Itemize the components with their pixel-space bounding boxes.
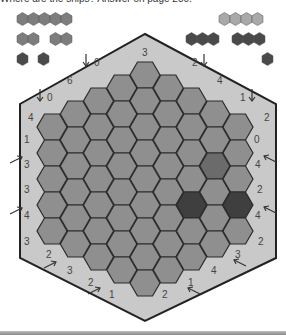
clue-number: 2: [162, 289, 168, 300]
clue-number: 1: [109, 289, 115, 300]
clue-number: 0: [94, 57, 100, 68]
clue-number: 6: [67, 75, 73, 86]
clue-number: 1: [24, 134, 30, 145]
fleet-ship-4: [219, 13, 263, 26]
clue-number: 2: [264, 112, 270, 123]
clue-number: 2: [88, 277, 94, 288]
clue-number: 3: [24, 184, 30, 195]
clue-number: 0: [47, 92, 53, 103]
fleet-ship-5: [17, 13, 72, 26]
fleet-ship-1b: [38, 53, 49, 66]
clue-number: 4: [28, 112, 34, 123]
clue-number: 4: [217, 75, 223, 86]
clue-number: 4: [255, 210, 261, 221]
clue-number: 1: [188, 277, 194, 288]
clue-number: 2: [257, 184, 263, 195]
clue-number: 0: [254, 134, 260, 145]
fleet-ship-1c: [262, 53, 273, 66]
fleet-ship-2b: [50, 33, 72, 46]
fleet-ship-3a: [186, 33, 219, 46]
fleet-ship-2a: [17, 33, 39, 46]
clue-number: 1: [240, 92, 246, 103]
fleet-ship-1a: [17, 53, 28, 66]
fleet-ship-3b: [232, 33, 265, 46]
arrow-down-icon: [83, 54, 89, 66]
clue-number: 3: [235, 249, 241, 260]
clue-number: 3: [24, 236, 30, 247]
bottom-bar: [0, 331, 286, 335]
clue-number: 4: [255, 159, 261, 170]
clue-number: 2: [258, 236, 264, 247]
clue-number: 4: [24, 210, 30, 221]
battleship-hex-board: 302640142133432321214320424: [0, 0, 286, 335]
clue-number: 4: [211, 265, 217, 276]
clue-number: 3: [67, 265, 73, 276]
clue-number: 2: [46, 249, 52, 260]
clue-number: 2: [192, 57, 198, 68]
clue-number: 3: [142, 47, 148, 58]
clue-number: 3: [24, 159, 30, 170]
